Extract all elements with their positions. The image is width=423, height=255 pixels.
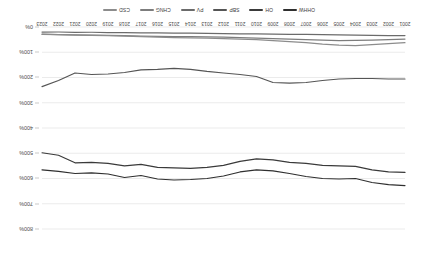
chart-legend: OHHWOHSBPPVCHNGCSD [103,4,315,16]
y-tick-label: 100% [19,49,33,55]
x-tick-label: 2014 [185,21,196,27]
y-axis-labels: 0%100%200%300%400%500%600%700%800% [3,27,39,229]
legend-color-swatch [181,9,195,11]
legend-color-swatch [140,9,154,11]
x-tick-label: 2006 [317,21,328,27]
series-lines [42,32,405,186]
legend-item-label: SBP [229,7,239,13]
y-tick-mark [35,77,39,78]
legend-item[interactable]: CHNG [140,7,171,13]
legend-item[interactable]: OH [249,7,273,13]
y-tick-label: 400% [19,125,33,131]
x-tick-label: 2010 [251,21,262,27]
x-tick-label: 2017 [135,21,146,27]
x-tick-label: 2015 [168,21,179,27]
legend-item-label: PV [197,7,204,13]
y-tick-label: 700% [19,201,33,207]
y-tick-mark [35,128,39,129]
series-line [42,153,405,173]
chart-figure: OHHWOHSBPPVCHNGCSD 0%100%200%300%400%500… [0,0,423,255]
legend-color-swatch [213,9,227,11]
x-axis-labels: 2001200220032004200520062007200820092010… [42,16,405,27]
y-tick-mark [35,178,39,179]
y-tick-mark [35,153,39,154]
y-tick-label: 800% [19,226,33,232]
legend-item-label: CHNG [156,7,171,13]
x-tick-label: 2019 [102,21,113,27]
legend-item[interactable]: OHHW [283,7,315,13]
y-tick-mark [35,203,39,204]
gridlines [42,27,405,229]
x-tick-label: 2002 [383,21,394,27]
legend-item-label: OH [265,7,273,13]
y-tick-label: 0% [25,24,33,30]
x-tick-label: 2001 [399,21,410,27]
x-tick-label: 2007 [300,21,311,27]
legend-item-label: OHHW [299,7,315,13]
y-tick-label: 600% [19,176,33,182]
x-tick-label: 2023 [36,21,47,27]
legend-color-swatch [283,9,297,11]
y-tick-label: 300% [19,100,33,106]
legend-color-swatch [249,9,263,11]
y-tick-label: 500% [19,150,33,156]
x-tick-label: 2008 [284,21,295,27]
x-tick-label: 2004 [350,21,361,27]
legend-item[interactable]: CSD [103,7,130,13]
y-tick-mark [35,52,39,53]
x-tick-label: 2016 [152,21,163,27]
x-tick-label: 2005 [333,21,344,27]
y-tick-label: 200% [19,75,33,81]
x-tick-label: 2003 [366,21,377,27]
legend-item[interactable]: PV [181,7,204,13]
y-tick-mark [35,102,39,103]
legend-item[interactable]: SBP [213,7,239,13]
x-tick-label: 2009 [267,21,278,27]
series-line [42,170,405,186]
x-tick-label: 2022 [53,21,64,27]
plot-area [42,27,405,229]
y-tick-mark [35,229,39,230]
legend-color-swatch [103,9,117,11]
x-tick-label: 2011 [235,21,246,27]
x-tick-label: 2018 [119,21,130,27]
x-tick-label: 2012 [218,21,229,27]
x-tick-label: 2021 [69,21,80,27]
x-tick-label: 2020 [86,21,97,27]
x-tick-label: 2013 [201,21,212,27]
legend-item-label: CSD [119,7,130,13]
line-chart-svg [42,27,405,229]
